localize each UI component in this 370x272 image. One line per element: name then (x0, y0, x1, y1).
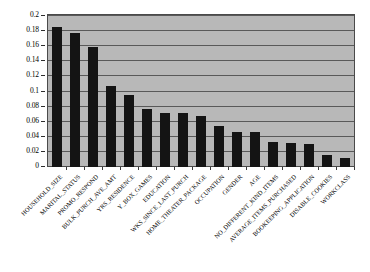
bar-slot (318, 15, 336, 167)
bar-slot (102, 15, 120, 167)
bar-slot (66, 15, 84, 167)
bars-container (48, 15, 354, 167)
bar[interactable] (124, 95, 134, 167)
bar-slot (120, 15, 138, 167)
y-axis-tick-mark (41, 136, 45, 137)
bar[interactable] (178, 113, 188, 167)
bar[interactable] (232, 132, 242, 167)
bar-slot (84, 15, 102, 167)
bar[interactable] (142, 109, 152, 167)
y-axis-tick-label: 0.04 (26, 132, 39, 140)
bar[interactable] (304, 144, 314, 167)
bar-slot (282, 15, 300, 167)
y-axis-tick-mark (41, 30, 45, 31)
x-axis-labels: HOUSEHOLD_SIZEMARITAL_STATUSPROMO_RESPON… (0, 167, 370, 272)
bar-chart: 00.020.040.060.080.10.120.140.160.180.2 … (0, 0, 370, 272)
bar[interactable] (52, 27, 62, 167)
y-axis-tick-label: 0.06 (26, 117, 39, 125)
bar-slot (336, 15, 354, 167)
bar-slot (264, 15, 282, 167)
bar[interactable] (322, 155, 332, 167)
y-axis-tick-label: 0.1 (30, 87, 39, 95)
y-axis-tick-label: 0.16 (26, 41, 39, 49)
bar[interactable] (340, 158, 350, 167)
bar[interactable] (196, 116, 206, 167)
bar-slot (246, 15, 264, 167)
y-axis-tick-label: 0.02 (26, 147, 39, 155)
bar-slot (210, 15, 228, 167)
bar[interactable] (160, 113, 170, 167)
bar-slot (48, 15, 66, 167)
x-axis-label-text: AGE (247, 173, 261, 187)
y-axis-tick-mark (41, 106, 45, 107)
bar-slot (228, 15, 246, 167)
bar-slot (156, 15, 174, 167)
y-axis-tick-mark (41, 15, 45, 16)
bar-slot (138, 15, 156, 167)
y-axis-tick-mark (41, 91, 45, 92)
y-axis-tick-label: 0.08 (26, 102, 39, 110)
y-axis-tick-mark (41, 45, 45, 46)
bar-slot (174, 15, 192, 167)
bar-slot (300, 15, 318, 167)
y-axis-tick-label: 0.2 (30, 11, 39, 19)
bar[interactable] (286, 143, 296, 167)
y-axis-tick-mark (41, 121, 45, 122)
y-axis-tick-label: 0.12 (26, 71, 39, 79)
bar[interactable] (70, 33, 80, 167)
y-axis-tick-mark (41, 60, 45, 61)
y-axis-tick-mark (41, 75, 45, 76)
bar[interactable] (88, 47, 98, 167)
y-axis-tick-label: 0.18 (26, 26, 39, 34)
y-axis-tick-mark (41, 151, 45, 152)
bar[interactable] (268, 142, 278, 167)
y-axis-tick-label: 0.14 (26, 56, 39, 64)
bar[interactable] (214, 126, 224, 167)
bar[interactable] (250, 132, 260, 167)
bar[interactable] (106, 86, 116, 167)
bar-slot (192, 15, 210, 167)
